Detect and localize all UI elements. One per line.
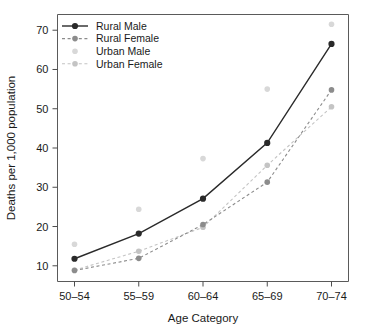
y-tick-label: 40 [36, 142, 48, 154]
data-point [72, 241, 78, 247]
data-point [328, 41, 334, 47]
y-tick-label: 70 [36, 24, 48, 36]
x-tick-label: 70–74 [316, 290, 347, 302]
data-point [329, 104, 335, 110]
y-tick-label: 30 [36, 181, 48, 193]
data-point [264, 86, 270, 92]
legend-label: Urban Male [96, 45, 150, 57]
data-point [200, 196, 206, 202]
x-tick-label: 55–59 [123, 290, 154, 302]
data-point [200, 222, 206, 228]
chart-container: 10203040506070 50–5455–5960–6465–6970–74… [0, 0, 367, 336]
x-axis-title: Age Category [168, 312, 239, 324]
chart-background [0, 0, 367, 336]
x-tick-label: 65–69 [252, 290, 283, 302]
legend-marker [72, 61, 78, 67]
y-axis-title: Deaths per 1,000 population [5, 76, 17, 221]
y-tick-label: 20 [36, 221, 48, 233]
data-point [136, 206, 142, 212]
data-point [329, 22, 335, 28]
legend-label: Rural Female [96, 32, 159, 44]
data-point [264, 179, 270, 185]
legend-marker [72, 36, 78, 42]
data-point [264, 162, 270, 168]
data-point [71, 256, 77, 262]
x-tick-label: 60–64 [188, 290, 219, 302]
legend-marker [72, 23, 78, 29]
data-point [72, 268, 78, 274]
data-point [136, 248, 142, 254]
y-tick-label: 60 [36, 63, 48, 75]
data-point [264, 140, 270, 146]
y-tick-label: 50 [36, 103, 48, 115]
x-tick-label: 50–54 [59, 290, 90, 302]
y-tick-label: 10 [36, 260, 48, 272]
line-chart: 10203040506070 50–5455–5960–6465–6970–74… [0, 0, 367, 336]
legend-label: Rural Male [96, 20, 147, 32]
data-point [136, 230, 142, 236]
data-point [136, 256, 142, 262]
data-point [329, 87, 335, 93]
legend-marker [72, 48, 78, 54]
legend-label: Urban Female [96, 58, 163, 70]
data-point [200, 156, 206, 162]
